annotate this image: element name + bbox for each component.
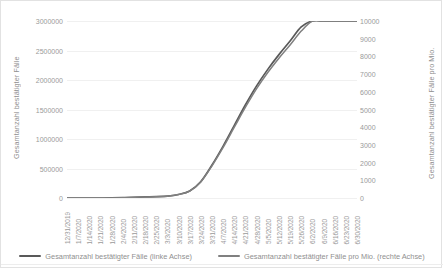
x-axis-tick-label: 12/31/2019 — [64, 212, 71, 244]
x-axis-tick-label: 2/4/2020 — [120, 219, 127, 244]
x-axis-tick-label: 2/18/2020 — [142, 216, 149, 244]
y-axis-right-tick-label: 6000 — [360, 88, 376, 95]
x-axis-tick-label: 4/7/2020 — [220, 219, 227, 244]
x-axis-tick-label: 3/17/2020 — [187, 216, 194, 244]
x-axis-ticks: 12/31/20191/7/20201/14/20201/21/20201/28… — [67, 200, 357, 244]
legend-label: Gesamtanzahl bestätigter Fälle pro Mio. … — [244, 252, 425, 261]
y-axis-right-tick-label: 9000 — [360, 35, 376, 42]
y-axis-left-tick-label: 0 — [59, 195, 63, 202]
x-axis-tick-label: 2/11/2020 — [131, 216, 138, 244]
legend-color-swatch — [19, 255, 41, 258]
series-line — [67, 21, 357, 198]
x-axis-tick-label: 6/9/2020 — [321, 219, 328, 244]
y-axis-right-tick-label: 2000 — [360, 159, 376, 166]
y-axis-right-tick-label: 5000 — [360, 106, 376, 113]
x-axis-tick-label: 1/7/2020 — [75, 219, 82, 244]
x-axis-tick-label: 1/28/2020 — [109, 216, 116, 244]
plot-area — [67, 21, 357, 198]
legend-color-swatch — [218, 255, 240, 258]
gridline — [67, 198, 357, 199]
y-axis-left-tick-label: 500000 — [40, 165, 63, 172]
y-axis-right-tick-label: 0 — [360, 195, 364, 202]
y-axis-left-tick-label: 2500000 — [36, 47, 63, 54]
x-axis-tick-label: 1/21/2020 — [97, 216, 104, 244]
x-axis-tick-label: 3/24/2020 — [198, 216, 205, 244]
y-axis-right-tick-label: 4000 — [360, 124, 376, 131]
y-axis-left-tick-label: 2000000 — [36, 77, 63, 84]
x-axis-tick-label: 2/25/2020 — [153, 216, 160, 244]
y-axis-right-tick-label: 10000 — [360, 18, 379, 25]
x-axis-tick-label: 6/16/2020 — [332, 216, 339, 244]
legend-item[interactable]: Gesamtanzahl bestätigter Fälle pro Mio. … — [218, 252, 425, 261]
x-axis-tick-label: 3/31/2020 — [209, 216, 216, 244]
x-axis-tick-label: 5/12/2020 — [276, 216, 283, 244]
legend-label: Gesamtanzahl bestätigter Fälle (linke Ac… — [45, 252, 192, 261]
y-axis-right-title: Gesamtanzahl bestätigter Fälle pro Mio. — [427, 23, 436, 203]
x-axis-tick-label: 1/14/2020 — [86, 216, 93, 244]
chart-legend: Gesamtanzahl bestätigter Fälle (linke Ac… — [1, 247, 443, 265]
legend-divider — [1, 264, 443, 265]
x-axis-tick-label: 6/2/2020 — [309, 219, 316, 244]
y-axis-right-ticks: 0100020003000400050006000700080009000100… — [360, 21, 400, 198]
x-axis-tick-label: 5/5/2020 — [265, 219, 272, 244]
x-axis-tick-label: 5/19/2020 — [287, 216, 294, 244]
y-axis-left-tick-label: 3000000 — [36, 18, 63, 25]
series-lines — [67, 21, 357, 198]
y-axis-right-tick-label: 7000 — [360, 71, 376, 78]
x-axis-tick-label: 6/23/2020 — [343, 216, 350, 244]
y-axis-right-tick-label: 1000 — [360, 177, 376, 184]
y-axis-right-tick-label: 3000 — [360, 141, 376, 148]
legend-item[interactable]: Gesamtanzahl bestätigter Fälle (linke Ac… — [19, 252, 192, 261]
series-line — [67, 21, 357, 198]
y-axis-right-tick-label: 8000 — [360, 53, 376, 60]
y-axis-left-tick-label: 1000000 — [36, 136, 63, 143]
y-axis-left-tick-label: 1500000 — [36, 106, 63, 113]
x-axis-tick-label: 4/14/2020 — [231, 216, 238, 244]
x-axis-tick-label: 5/26/2020 — [298, 216, 305, 244]
x-axis-tick-label: 4/28/2020 — [254, 216, 261, 244]
x-axis-tick-label: 6/30/2020 — [354, 216, 361, 244]
x-axis-tick-label: 4/21/2020 — [242, 216, 249, 244]
x-axis-tick-label: 3/10/2020 — [176, 216, 183, 244]
y-axis-left-ticks: 0500000100000015000002000000250000030000… — [1, 21, 63, 198]
x-axis-tick-label: 3/3/2020 — [164, 219, 171, 244]
